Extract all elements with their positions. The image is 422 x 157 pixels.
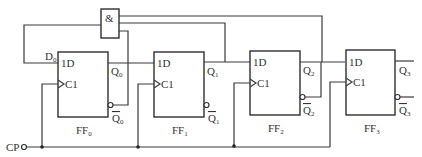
q1bar-label: Q1	[208, 112, 220, 126]
q3bar-label: Q3	[399, 104, 411, 118]
flip-flop-2: 1D C1 Q2 Q2 FF2	[250, 51, 321, 136]
clock-input-label: C1	[353, 76, 366, 88]
q2bar-label: Q2	[303, 104, 315, 118]
junction-dot-icon	[40, 145, 44, 149]
d-input-label: 1D	[253, 56, 267, 68]
clock-input-label: C1	[161, 78, 174, 90]
cp-label: CP	[6, 141, 19, 153]
shift-register-circuit: & 1D C1 D0 Q0 Q0 FF0 1D C1 Q1 Q1 FF1	[0, 0, 422, 157]
inversion-bubble-icon	[300, 95, 305, 100]
clock-input-label: C1	[257, 77, 270, 89]
d-input-label: 1D	[349, 56, 363, 68]
d0-label: D0	[45, 50, 57, 64]
d-input-label: 1D	[157, 57, 171, 69]
inversion-bubble-icon	[395, 95, 400, 100]
clock-input-label: C1	[65, 78, 78, 90]
q0-label: Q0	[111, 65, 123, 79]
inversion-bubble-icon	[108, 103, 113, 108]
ff2-name: FF2	[268, 122, 284, 136]
ff3-name: FF3	[364, 122, 380, 136]
ff0-name: FF0	[76, 124, 92, 138]
junction-dot-icon	[136, 145, 140, 149]
d-input-label: 1D	[61, 57, 75, 69]
flip-flop-3: 1D C1 Q3 Q3 FF3	[346, 50, 414, 136]
q1-label: Q1	[207, 65, 219, 79]
input-terminal-icon	[22, 145, 27, 150]
q0bar-label: Q0	[112, 112, 124, 126]
ff1-name: FF1	[172, 124, 188, 138]
inversion-bubble-icon	[204, 103, 209, 108]
and-gate-label: &	[105, 12, 114, 24]
and-gate: &	[101, 9, 119, 38]
flip-flop-1: 1D C1 Q1 Q1 FF1	[154, 52, 220, 138]
and-input-wires	[113, 16, 322, 105]
junction-dot-icon	[232, 144, 236, 148]
q2-label: Q2	[303, 64, 315, 78]
q3-label: Q3	[399, 64, 411, 78]
